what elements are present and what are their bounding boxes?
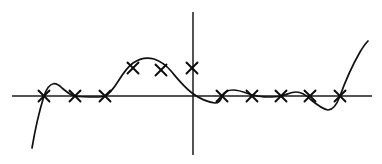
data-point-marker: [156, 65, 167, 76]
plot-figure: [0, 0, 382, 164]
data-point-marker: [128, 63, 139, 74]
plot-canvas: [0, 0, 382, 164]
fitted-curve: [32, 41, 368, 148]
data-point-marker: [187, 63, 198, 74]
